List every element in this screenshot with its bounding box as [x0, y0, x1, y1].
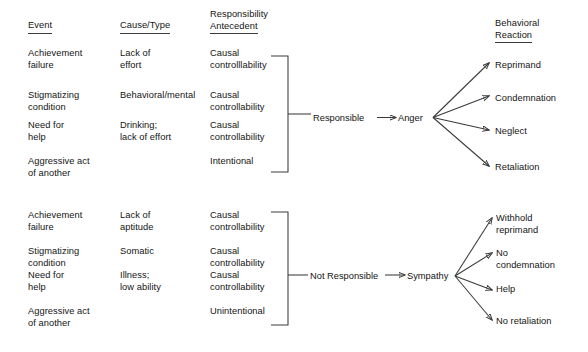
top-cause-row-0: Lack ofeffort — [120, 48, 150, 71]
top-event-row-0: Achievementfailure — [28, 48, 82, 71]
bottom-antecedent-row-3-line1: Unintentional — [210, 306, 265, 316]
attribution-theory-flow-diagram: Event Cause/Type ResponsibilityAnteceden… — [0, 0, 588, 352]
top-judgment-label: Responsible — [313, 113, 364, 123]
bottom-event-row-2-line1: Need for — [28, 270, 64, 280]
top-antecedent-row-3-line1: Intentional — [210, 156, 253, 166]
bottom-antecedent-row-3: Unintentional — [210, 306, 265, 318]
bottom-judgment-node: Not Responsible — [310, 271, 378, 283]
bottom-antecedent-row-1: Causalcontrollability — [210, 246, 265, 269]
bottom-emotion-to-help-arrow — [455, 276, 492, 290]
bottom-cause-row-0: Lack ofaptitude — [120, 210, 153, 233]
top-emotion-to-condemnation-arrow — [433, 96, 489, 118]
bottom-event-row-1-line2: condition — [28, 258, 66, 268]
top-grouping-bracket — [271, 56, 288, 172]
column-header-cause-type-label: Cause/Type — [120, 20, 170, 34]
top-antecedent-row-0-line1: Causal — [210, 48, 239, 58]
bottom-event-row-3-line1: Aggressive act — [28, 306, 90, 316]
top-emotion-to-retaliation-arrow — [433, 118, 489, 167]
top-cause-row-0-line2: effort — [120, 60, 141, 70]
bottom-cause-row-2-line1: Illness; — [120, 270, 149, 280]
bottom-judgment-label: Not Responsible — [310, 271, 378, 281]
top-judgment-node: Responsible — [313, 113, 364, 125]
bottom-cause-row-0-line2: aptitude — [120, 222, 153, 232]
bottom-antecedent-row-2-line1: Causal — [210, 270, 239, 280]
column-header-responsibility-antecedent: ResponsibilityAntecedent — [210, 9, 268, 34]
top-event-row-1: Stigmatizingcondition — [28, 90, 79, 113]
bottom-reaction-row-2-line1: Help — [496, 284, 515, 294]
bottom-emotion-to-withhold-reprimand-arrow — [455, 218, 492, 276]
column-header-event: Event — [28, 20, 52, 34]
bottom-emotion-node: Sympathy — [407, 271, 448, 283]
bottom-antecedent-row-0-line1: Causal — [210, 210, 239, 220]
top-reaction-row-3-line1: Retaliation — [495, 162, 539, 172]
bottom-reaction-row-2: Help — [496, 284, 515, 296]
top-emotion-label: Anger — [398, 113, 423, 123]
bottom-event-row-3: Aggressive actof another — [28, 306, 90, 329]
top-emotion-to-reprimand-arrow — [433, 63, 489, 118]
top-antecedent-row-2: Causalcontrollability — [210, 120, 265, 143]
bottom-antecedent-row-0: Causalcontrollability — [210, 210, 265, 233]
top-cause-row-1-line1: Behavioral/mental — [120, 90, 195, 100]
top-antecedent-row-1-line2: controllability — [210, 102, 265, 112]
bottom-reaction-row-0-line2: reprimand — [496, 225, 538, 235]
bottom-reaction-row-3-line1: No retaliation — [496, 316, 551, 326]
bottom-reaction-row-1-line2: condemnation — [496, 260, 555, 270]
top-antecedent-row-2-line1: Causal — [210, 120, 239, 130]
top-event-row-2-line1: Need for — [28, 120, 64, 130]
bottom-antecedent-row-2-line2: controllability — [210, 282, 265, 292]
bottom-cause-row-1: Somatic — [120, 246, 154, 258]
bottom-event-row-2-line2: help — [28, 282, 46, 292]
top-cause-row-2: Drinking;lack of effort — [120, 120, 171, 143]
bottom-reaction-row-0-line1: Withhold — [496, 213, 533, 223]
bottom-reaction-row-1-line1: No — [496, 248, 508, 258]
top-event-row-3-line1: Aggressive act — [28, 156, 90, 166]
top-reaction-row-1-line1: Condemnation — [495, 93, 556, 103]
bottom-cause-row-2-line2: low ability — [120, 282, 161, 292]
bottom-antecedent-row-1-line1: Causal — [210, 246, 239, 256]
bottom-reaction-row-0: Withholdreprimand — [496, 213, 538, 236]
bottom-antecedent-row-0-line2: controllability — [210, 222, 265, 232]
bottom-event-row-1: Stigmatizingcondition — [28, 246, 79, 269]
top-antecedent-row-1: Causalcontrollability — [210, 90, 265, 113]
bottom-event-row-0-line1: Achievement — [28, 210, 82, 220]
top-reaction-row-2-line1: Neglect — [495, 126, 527, 136]
bottom-reaction-row-1: Nocondemnation — [496, 248, 555, 271]
top-reaction-row-2: Neglect — [495, 126, 527, 138]
top-reaction-row-3: Retaliation — [495, 162, 539, 174]
top-antecedent-row-0: Causalcontrolllability — [210, 48, 267, 71]
column-header-behavioral-reaction: BehavioralReaction — [495, 18, 539, 43]
column-header-responsibility-line1: Responsibility — [210, 9, 268, 19]
bottom-reaction-row-3: No retaliation — [496, 316, 551, 328]
column-header-behavioral-line1: Behavioral — [495, 18, 539, 28]
bottom-emotion-label: Sympathy — [407, 271, 448, 281]
top-reaction-row-0-line1: Reprimand — [495, 60, 541, 70]
top-cause-row-2-line1: Drinking; — [120, 120, 157, 130]
top-cause-row-2-line2: lack of effort — [120, 132, 171, 142]
column-header-cause-type: Cause/Type — [120, 20, 170, 34]
top-cause-row-0-line1: Lack of — [120, 48, 150, 58]
bottom-cause-row-1-line1: Somatic — [120, 246, 154, 256]
top-antecedent-row-1-line1: Causal — [210, 90, 239, 100]
top-cause-row-1: Behavioral/mental — [120, 90, 195, 102]
bottom-antecedent-row-1-line2: controllability — [210, 258, 265, 268]
bottom-emotion-to-no-retaliation-arrow — [455, 276, 492, 320]
top-emotion-node: Anger — [398, 113, 423, 125]
bottom-event-row-0-line2: failure — [28, 222, 54, 232]
column-header-event-label: Event — [28, 20, 52, 34]
top-emotion-to-neglect-arrow — [433, 118, 489, 131]
top-antecedent-row-2-line2: controllability — [210, 132, 265, 142]
top-antecedent-row-3: Intentional — [210, 156, 253, 168]
top-event-row-3: Aggressive actof another — [28, 156, 90, 179]
bottom-antecedent-row-2: Causalcontrollability — [210, 270, 265, 293]
bottom-event-row-3-line2: of another — [28, 318, 70, 328]
bottom-grouping-bracket — [271, 212, 288, 325]
bottom-cause-row-0-line1: Lack of — [120, 210, 150, 220]
bottom-emotion-to-no-condemnation-arrow — [455, 253, 492, 276]
top-event-row-2: Need forhelp — [28, 120, 64, 143]
top-antecedent-row-0-line2: controlllability — [210, 60, 267, 70]
top-event-row-1-line2: condition — [28, 102, 66, 112]
top-event-row-0-line1: Achievement — [28, 48, 82, 58]
column-header-behavioral-line2: Reaction — [495, 30, 532, 44]
top-event-row-3-line2: of another — [28, 168, 70, 178]
top-event-row-0-line2: failure — [28, 60, 54, 70]
